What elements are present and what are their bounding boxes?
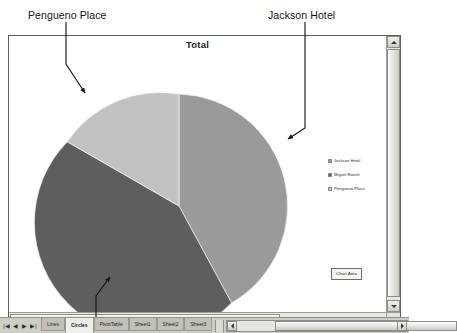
scroll-left-button[interactable] — [227, 321, 237, 331]
chevron-up-icon — [391, 41, 397, 44]
legend-swatch-icon — [328, 159, 332, 163]
workbook-horizontal-scrollbar[interactable] — [226, 320, 408, 332]
sheet-tab-sheet2[interactable]: Sheet2 — [157, 318, 185, 331]
prev-sheet-icon: ◀ — [13, 323, 18, 329]
legend-swatch-icon — [328, 173, 332, 177]
workbook-scrollbar-thumb[interactable] — [275, 321, 457, 331]
tab-split-handle[interactable] — [215, 320, 224, 332]
next-sheet-button[interactable]: ▶ — [21, 321, 28, 330]
legend-item-label: Jackson Hotel — [334, 158, 360, 164]
chart-plot-area[interactable]: Total Jackson Hotel Miguel Ranch Pengu — [9, 36, 386, 312]
scroll-up-button[interactable] — [387, 36, 400, 48]
sheet-tab-lines[interactable]: Lines — [41, 318, 65, 331]
legend-item[interactable]: Pengueno Place — [328, 185, 386, 192]
sheet-tabs[interactable]: Lines Circles PivotTable Sheet1 Sheet2 S… — [41, 318, 212, 333]
prev-sheet-button[interactable]: ◀ — [12, 321, 19, 330]
first-sheet-button[interactable]: |◀ — [3, 321, 10, 330]
chart-area-tooltip: Chart Area — [331, 268, 362, 280]
chevron-left-icon — [231, 323, 234, 329]
scroll-down-button[interactable] — [387, 300, 400, 312]
chevron-right-icon — [401, 323, 404, 329]
last-sheet-icon: ▶| — [30, 323, 37, 329]
chart-legend[interactable]: Jackson Hotel Miguel Ranch Pengueno Plac… — [328, 157, 386, 199]
sheet-tab-pivottable[interactable]: PivotTable — [94, 318, 129, 331]
sheet-tab-circles[interactable]: Circles — [65, 318, 94, 333]
last-sheet-button[interactable]: ▶| — [30, 321, 37, 330]
first-sheet-icon: |◀ — [3, 323, 10, 329]
legend-item[interactable]: Miguel Ranch — [328, 171, 386, 178]
callout-label-pengueno-place: Pengueno Place — [28, 9, 106, 21]
legend-item-label: Pengueno Place — [334, 186, 365, 192]
legend-swatch-icon — [328, 187, 332, 191]
vertical-scrollbar-thumb[interactable] — [387, 49, 400, 297]
sheet-nav-buttons[interactable]: |◀ ◀ ▶ ▶| — [0, 321, 39, 330]
chart-window: Total Jackson Hotel Miguel Ranch Pengu — [8, 35, 401, 325]
callout-label-jackson-hotel: Jackson Hotel — [268, 9, 335, 21]
sheet-tab-bar: |◀ ◀ ▶ ▶| Lines Circles PivotTable Sheet… — [0, 317, 409, 333]
next-sheet-icon: ▶ — [22, 323, 27, 329]
sheet-tab-sheet3[interactable]: Sheet3 — [184, 318, 212, 331]
legend-item-label: Miguel Ranch — [334, 172, 360, 178]
sheet-tab-sheet1[interactable]: Sheet1 — [129, 318, 157, 331]
legend-item[interactable]: Jackson Hotel — [328, 157, 386, 164]
vertical-scrollbar[interactable] — [386, 36, 400, 312]
scroll-right-button[interactable] — [397, 321, 407, 331]
chevron-down-icon — [391, 305, 397, 308]
